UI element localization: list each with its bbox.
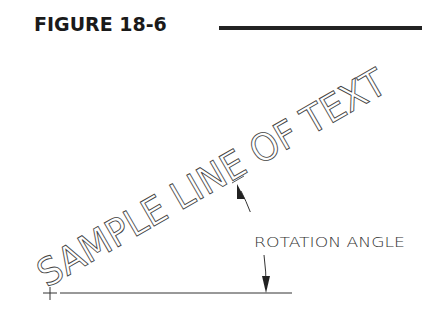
arrowhead-down-icon (262, 276, 270, 293)
sample-line-of-text: SAMPLE LINE OF TEXT (30, 60, 395, 296)
rotated-sample-text: SAMPLE LINE OF TEXT (30, 60, 395, 296)
rotation-angle-label: ROTATION ANGLE (254, 234, 405, 250)
rotation-angle-drawing: SAMPLE LINE OF TEXT ROTATION ANGLE (0, 0, 448, 335)
